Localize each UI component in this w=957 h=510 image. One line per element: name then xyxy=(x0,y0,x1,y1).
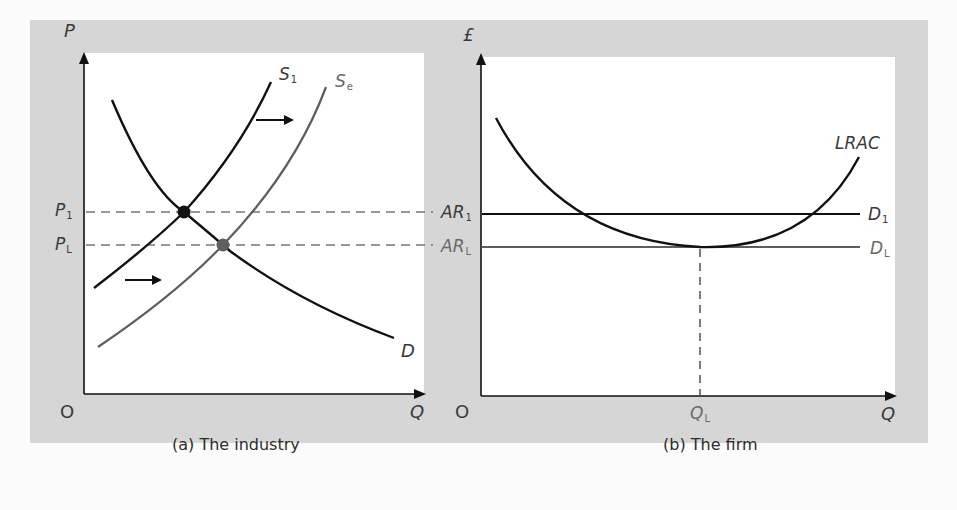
supply-initial-label: S1 xyxy=(279,66,297,85)
firm-caption: (b) The firm xyxy=(663,435,758,454)
industry-x-axis-label: Q xyxy=(410,403,424,421)
industry-axes xyxy=(79,52,426,399)
demand-label-d1: D1 xyxy=(868,206,888,225)
industry-y-axis-label: P xyxy=(64,22,75,40)
diagram-svg xyxy=(0,0,957,510)
industry-caption: (a) The industry xyxy=(172,435,300,454)
industry-origin-label: O xyxy=(60,403,74,421)
price-label-p1: P1 xyxy=(55,202,73,221)
demand-curve xyxy=(112,100,394,338)
demand-label-dl: DL xyxy=(870,240,890,259)
lrac-label: LRAC xyxy=(835,135,880,152)
firm-origin-label: O xyxy=(455,403,469,421)
supply-initial-curve xyxy=(94,82,271,288)
demand-label: D xyxy=(401,342,415,360)
revenue-label-ar1: AR1 xyxy=(441,204,472,223)
equilibrium-dot-longrun xyxy=(217,239,230,252)
price-label-pl: PL xyxy=(55,236,72,255)
supply-equilibrium-curve xyxy=(98,87,326,347)
lrac-curve xyxy=(496,118,859,247)
firm-axes xyxy=(476,53,897,401)
supply-equilibrium-label: Se xyxy=(335,73,353,92)
revenue-label-arl: ARL xyxy=(441,238,471,257)
equilibrium-dot-initial xyxy=(178,206,191,219)
firm-y-axis-label: £ xyxy=(463,27,474,44)
firm-x-axis-label: Q xyxy=(881,405,895,423)
quantity-label-ql: QL xyxy=(690,405,710,424)
